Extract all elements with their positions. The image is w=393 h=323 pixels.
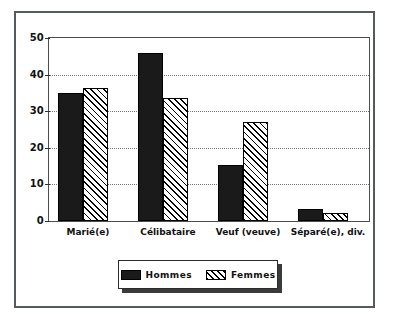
- bar-group: [49, 38, 129, 221]
- bar-femmes-3[interactable]: [323, 213, 348, 221]
- legend-swatch-femmes-icon: [206, 270, 226, 280]
- bar-group: [209, 38, 289, 221]
- y-tick-label: 20: [4, 143, 44, 153]
- bar-femmes-0[interactable]: [83, 88, 108, 221]
- bar-hommes-2[interactable]: [218, 165, 243, 221]
- legend-entry-femmes[interactable]: Femmes: [206, 270, 276, 280]
- legend-entry-hommes[interactable]: Hommes: [121, 270, 192, 280]
- legend-label-hommes: Hommes: [146, 270, 192, 280]
- y-axis: 01020304050: [0, 37, 44, 222]
- plot-area: [48, 37, 370, 222]
- legend-swatch-hommes-icon: [121, 270, 141, 280]
- x-axis: Marié(e)CélibataireVeuf (veuve)Séparé(e)…: [48, 226, 370, 242]
- bar-femmes-2[interactable]: [243, 122, 268, 221]
- bar-group: [129, 38, 209, 221]
- chart-figure: 01020304050 Marié(e)CélibataireVeuf (veu…: [0, 0, 393, 323]
- legend-label-femmes: Femmes: [231, 270, 276, 280]
- y-tick-label: 50: [4, 33, 44, 43]
- bar-hommes-1[interactable]: [138, 53, 163, 221]
- bar-group: [289, 38, 369, 221]
- bar-hommes-3[interactable]: [298, 209, 323, 221]
- y-tick-label: 10: [4, 179, 44, 189]
- y-tick-label: 30: [4, 106, 44, 116]
- bar-hommes-0[interactable]: [58, 93, 83, 221]
- y-tick-label: 40: [4, 70, 44, 80]
- bar-femmes-1[interactable]: [163, 98, 188, 221]
- y-tick-label: 0: [4, 216, 44, 226]
- chart-legend: Hommes Femmes: [118, 260, 278, 289]
- x-tick-label: Séparé(e), div.: [276, 226, 380, 238]
- y-tick-mark: [45, 221, 50, 222]
